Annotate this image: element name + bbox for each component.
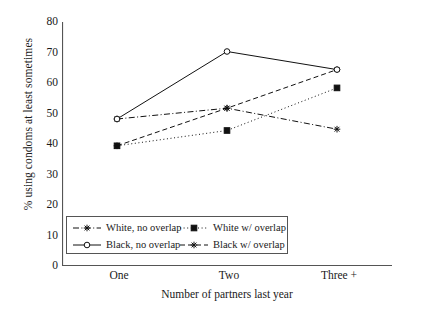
legend-item-white-with-overlap: White w/ overlap: [179, 219, 286, 236]
x-tick-label-two: Two: [189, 270, 269, 282]
x-tick-label-three-plus: Three +: [299, 270, 379, 282]
series-markers-white-with-overlap: [114, 85, 340, 149]
y-tick-label-50: 50: [32, 108, 58, 120]
legend-item-black-no-overlap: Black, no overlap: [72, 236, 180, 253]
y-tick-label-70: 70: [32, 47, 58, 59]
y-tick-label-60: 60: [32, 77, 58, 89]
legend-label-white-with-overlap: White w/ overlap: [213, 222, 286, 233]
chart-figure: % using condoms at least sometimes 80 70…: [0, 0, 424, 317]
legend-label-black-with-overlap: Black w/ overlap: [213, 239, 285, 250]
x-axis-title: Number of partners last year: [62, 288, 392, 300]
y-axis-ticks: 80 70 60 50 40 30 20 10 0: [0, 22, 58, 266]
y-tick-label-80: 80: [32, 16, 58, 28]
legend-sample-dashed-asterisk-icon: [179, 238, 209, 252]
series-line-white-with-overlap: [117, 88, 337, 146]
x-tick-label-one: One: [79, 270, 159, 282]
legend-sample-dotted-square-icon: [179, 221, 209, 235]
y-tick-label-40: 40: [32, 138, 58, 150]
y-tick-label-20: 20: [32, 199, 58, 211]
chart-legend: White, no overlap Black, no overlap Whit…: [66, 216, 288, 254]
legend-sample-solid-circle-icon: [72, 238, 102, 252]
legend-item-white-no-overlap: White, no overlap: [72, 219, 182, 236]
legend-label-white-no-overlap: White, no overlap: [106, 222, 182, 233]
y-tick-label-10: 10: [32, 230, 58, 242]
legend-label-black-no-overlap: Black, no overlap: [106, 239, 180, 250]
legend-sample-dash-dot-asterisk-icon: [72, 221, 102, 235]
y-tick-label-30: 30: [32, 169, 58, 181]
legend-item-black-with-overlap: Black w/ overlap: [179, 236, 285, 253]
y-tick-label-0: 0: [32, 260, 58, 272]
